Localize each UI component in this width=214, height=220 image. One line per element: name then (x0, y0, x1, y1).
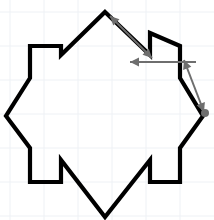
right-vertex-dot (201, 109, 209, 117)
star-rosette-figure (0, 0, 214, 220)
figure-root (0, 0, 214, 220)
point-markers (201, 109, 209, 117)
figure-background (0, 0, 214, 220)
